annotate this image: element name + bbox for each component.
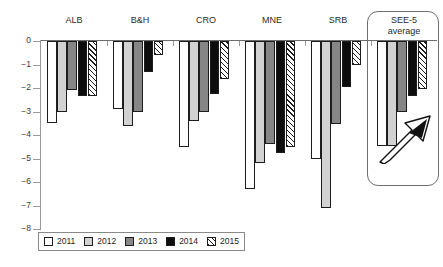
bar-mne-2015 — [286, 41, 296, 147]
bar-see-5-2014 — [408, 41, 418, 96]
y-tick-label: −5 — [5, 154, 31, 163]
group-separator — [173, 41, 174, 46]
bar-srb-2012 — [321, 41, 331, 208]
bar-b-h-2011 — [113, 41, 123, 109]
bar-mne-2012 — [255, 41, 265, 163]
y-tick-label: −7 — [5, 201, 31, 210]
bar-srb-2011 — [311, 41, 321, 159]
bar-cro-2012 — [189, 41, 199, 121]
group-separator — [107, 41, 108, 46]
legend-item-2014: 2014 — [166, 237, 198, 246]
y-tick-label: −3 — [5, 107, 31, 116]
bar-see-5-2013 — [397, 41, 407, 112]
y-tick-label: −2 — [5, 83, 31, 92]
bar-mne-2013 — [265, 41, 275, 144]
y-tick — [33, 88, 41, 89]
category-label-b-h: B&H — [107, 15, 173, 26]
legend-item-2012: 2012 — [84, 237, 116, 246]
y-tick — [33, 182, 41, 183]
bar-alb-2013 — [67, 41, 77, 90]
bar-cro-2013 — [199, 41, 209, 112]
bar-cro-2015 — [220, 41, 230, 79]
legend-item-2015: 2015 — [207, 237, 239, 246]
y-tick — [33, 206, 41, 207]
y-tick — [33, 159, 41, 160]
category-label-cro: CRO — [173, 15, 239, 26]
bar-b-h-2013 — [133, 41, 143, 112]
group-separator — [371, 41, 372, 46]
legend-swatch-2014 — [166, 237, 175, 246]
legend-label-2011: 2011 — [57, 237, 75, 246]
y-tick-label: −4 — [5, 130, 31, 139]
bar-b-h-2014 — [144, 41, 154, 72]
bar-b-h-2015 — [154, 41, 164, 55]
bar-alb-2011 — [47, 41, 57, 123]
bar-see-5-2015 — [418, 41, 428, 89]
bar-alb-2015 — [88, 41, 98, 96]
bar-mne-2011 — [245, 41, 255, 189]
bar-srb-2014 — [342, 41, 352, 87]
y-tick — [33, 112, 41, 113]
bar-srb-2015 — [352, 41, 362, 65]
category-label-see-5: SEE-5 average — [371, 15, 437, 36]
legend-label-2013: 2013 — [138, 237, 157, 246]
bar-cro-2011 — [179, 41, 189, 147]
bar-cro-2014 — [210, 41, 220, 94]
legend-label-2015: 2015 — [220, 237, 239, 246]
category-label-srb: SRB — [305, 15, 371, 26]
legend-item-2013: 2013 — [125, 237, 157, 246]
y-tick — [33, 41, 41, 42]
legend-swatch-2015 — [207, 237, 216, 246]
y-tick-label: −6 — [5, 177, 31, 186]
bar-b-h-2012 — [123, 41, 133, 126]
chart-legend: 20112012201320142015 — [38, 232, 245, 251]
legend-swatch-2012 — [84, 237, 93, 246]
category-label-alb: ALB — [41, 15, 107, 26]
category-label-mne: MNE — [239, 15, 305, 26]
bar-mne-2014 — [276, 41, 286, 153]
bar-chart: 0−1−2−3−4−5−6−7−8 ALBB&HCROMNESRBSEE-5 a… — [0, 0, 443, 267]
y-tick — [33, 65, 41, 66]
legend-item-2011: 2011 — [44, 237, 75, 246]
y-axis-tick-labels: 0−1−2−3−4−5−6−7−8 — [0, 0, 31, 267]
legend-swatch-2011 — [44, 237, 53, 246]
legend-label-2012: 2012 — [97, 237, 116, 246]
y-tick — [33, 229, 41, 230]
legend-label-2014: 2014 — [179, 237, 198, 246]
group-separator — [305, 41, 306, 46]
y-tick-label: −1 — [5, 60, 31, 69]
legend-swatch-2013 — [125, 237, 134, 246]
group-separator — [239, 41, 240, 46]
y-tick-label: −8 — [5, 224, 31, 233]
bar-alb-2014 — [78, 41, 88, 96]
y-tick-label: 0 — [5, 36, 31, 45]
improvement-arrow-icon — [378, 112, 436, 164]
bar-alb-2012 — [57, 41, 67, 112]
y-tick — [33, 135, 41, 136]
bar-srb-2013 — [331, 41, 341, 124]
